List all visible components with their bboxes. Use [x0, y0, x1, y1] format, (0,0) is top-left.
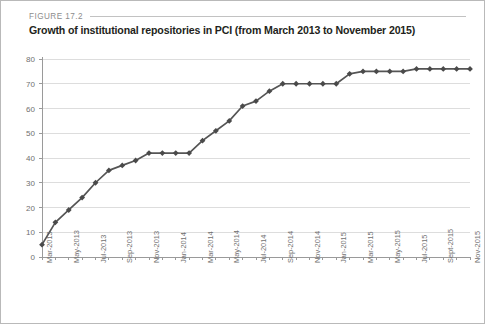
- x-axis-tick-label: Sept-2015: [446, 229, 455, 263]
- y-axis-tick-label: 30: [11, 178, 35, 187]
- data-point-marker: [427, 66, 433, 72]
- y-axis-tick-label: 70: [11, 79, 35, 88]
- data-series-line: [42, 69, 470, 245]
- data-point-marker: [307, 81, 313, 87]
- x-axis-tick-label: Jan-2014: [179, 232, 188, 263]
- line-chart: 01020304050607080 Mar-2013May-2013Jul-20…: [1, 47, 485, 324]
- data-point-marker: [467, 66, 473, 72]
- data-point-marker: [454, 66, 460, 72]
- y-axis-tick-label: 10: [11, 228, 35, 237]
- data-point-marker: [414, 66, 420, 72]
- y-axis-tick-label: 0: [11, 253, 35, 262]
- y-axis-tick-label: 60: [11, 104, 35, 113]
- x-axis-tick-label: Nov-2015: [473, 231, 482, 263]
- data-point-marker: [320, 81, 326, 87]
- x-axis-tick-label: Mar-2014: [206, 231, 215, 263]
- y-axis-tick-label: 20: [11, 203, 35, 212]
- x-axis-tick-label: May-2013: [72, 230, 81, 263]
- data-point-marker: [373, 68, 379, 74]
- x-axis-tick-label: Jul-2013: [99, 235, 108, 263]
- figure-header: FIGURE 17.2: [29, 10, 466, 22]
- x-axis-tick-label: Mar-2015: [366, 231, 375, 263]
- figure-title: Growth of institutional repositories in …: [29, 24, 470, 36]
- x-axis-tick-label: Jul-2014: [259, 235, 268, 263]
- data-point-marker: [293, 81, 299, 87]
- x-axis-tick-label: Sep-2014: [286, 231, 295, 263]
- x-axis-tick-label: Sep-2013: [125, 231, 134, 263]
- data-point-marker: [400, 68, 406, 74]
- figure-label: FIGURE 17.2: [29, 12, 83, 21]
- y-axis-tick-label: 80: [11, 55, 35, 64]
- figure-container: FIGURE 17.2 Growth of institutional repo…: [0, 0, 485, 324]
- x-axis-tick-label: Jul-2015: [420, 235, 429, 263]
- data-point-marker: [119, 163, 125, 169]
- chart-plot-svg: [1, 47, 485, 324]
- x-axis-tick-label: May-2014: [232, 230, 241, 263]
- data-point-marker: [360, 68, 366, 74]
- y-axis-tick-label: 40: [11, 154, 35, 163]
- y-axis-tick-label: 50: [11, 129, 35, 138]
- data-point-marker: [173, 150, 179, 156]
- figure-header-rule: [90, 16, 466, 17]
- x-axis-tick-label: Nov-2014: [313, 231, 322, 263]
- data-point-marker: [387, 68, 393, 74]
- x-axis-tick-label: Jan-2015: [339, 232, 348, 263]
- x-axis-tick-label: Mar-2013: [45, 231, 54, 263]
- x-axis-tick-label: Nov-2013: [152, 231, 161, 263]
- x-axis-tick-label: May-2015: [393, 230, 402, 263]
- data-point-marker: [440, 66, 446, 72]
- data-point-marker: [159, 150, 165, 156]
